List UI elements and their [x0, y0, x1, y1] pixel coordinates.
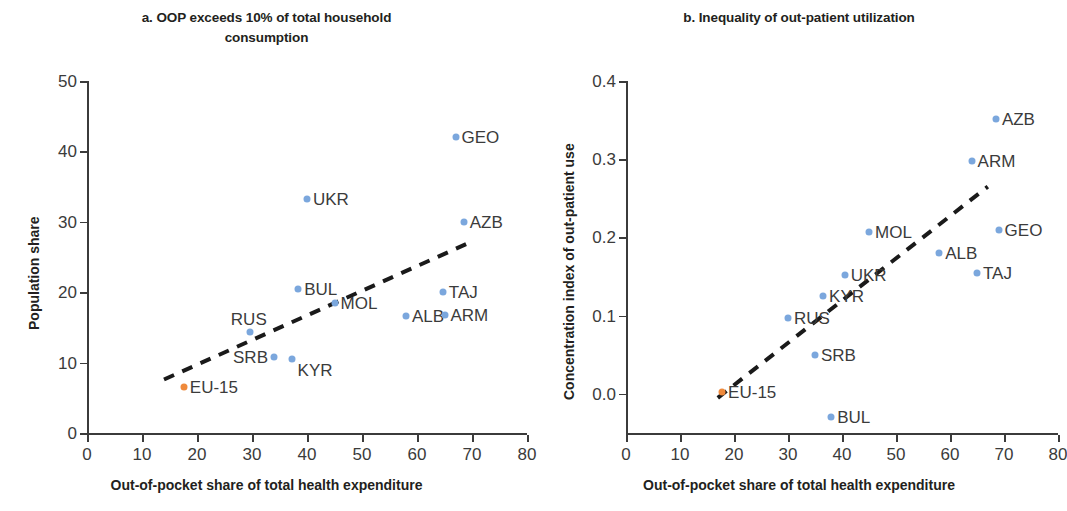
panel-b-plot-area: 0.00.10.20.30.401020304050607080Out-of-p… — [533, 0, 1065, 511]
data-point-label: TAJ — [983, 264, 1012, 281]
data-point — [841, 271, 848, 278]
panel-a: a. OOP exceeds 10% of total household co… — [0, 0, 533, 511]
data-point — [460, 218, 467, 225]
data-point — [271, 353, 278, 360]
data-point-label: ALB — [945, 245, 977, 262]
data-point-label: SRB — [233, 348, 268, 365]
data-point — [812, 351, 819, 358]
panel-b: b. Inequality of out-patient utilization… — [533, 0, 1065, 511]
data-point — [820, 293, 827, 300]
data-point — [452, 134, 459, 141]
data-point-label: AZB — [1002, 111, 1035, 128]
data-point-label: ARM — [451, 306, 489, 323]
data-point-label: GEO — [1005, 221, 1043, 238]
data-point — [246, 329, 253, 336]
data-point-label: MOL — [341, 295, 378, 312]
data-point — [866, 228, 873, 235]
data-point-label: BUL — [304, 281, 337, 298]
data-point-label: TAJ — [449, 284, 478, 301]
data-point — [968, 157, 975, 164]
data-point-label: SRB — [821, 346, 856, 363]
data-point — [828, 414, 835, 421]
data-point — [785, 315, 792, 322]
data-point — [331, 300, 338, 307]
panel-a-plot-area: 0102030405001020304050607080Out-of-pocke… — [0, 0, 533, 511]
data-point — [719, 389, 726, 396]
data-point-label: RUS — [231, 311, 267, 328]
data-point — [304, 195, 311, 202]
data-point-label: UKR — [313, 190, 349, 207]
data-point — [441, 311, 448, 318]
data-point — [403, 313, 410, 320]
data-point-label: KYR — [298, 362, 333, 379]
data-point-label: ARM — [978, 152, 1016, 169]
trendline — [0, 0, 533, 511]
data-point — [992, 116, 999, 123]
data-point-label: EU-15 — [190, 378, 238, 395]
data-point-label: ALB — [412, 308, 444, 325]
data-point-label: RUS — [794, 310, 830, 327]
data-point-label: EU-15 — [728, 384, 776, 401]
data-point-label: GEO — [462, 129, 500, 146]
data-point-label: BUL — [837, 409, 870, 426]
data-point-label: UKR — [851, 266, 887, 283]
data-point — [439, 289, 446, 296]
data-point-label: MOL — [875, 223, 912, 240]
data-point — [295, 286, 302, 293]
data-point — [180, 383, 187, 390]
data-point-label: AZB — [470, 213, 503, 230]
data-point — [936, 250, 943, 257]
data-point — [974, 269, 981, 276]
data-point-label: KYR — [829, 288, 864, 305]
data-point — [995, 226, 1002, 233]
trendline — [533, 0, 1065, 511]
data-point — [288, 356, 295, 363]
